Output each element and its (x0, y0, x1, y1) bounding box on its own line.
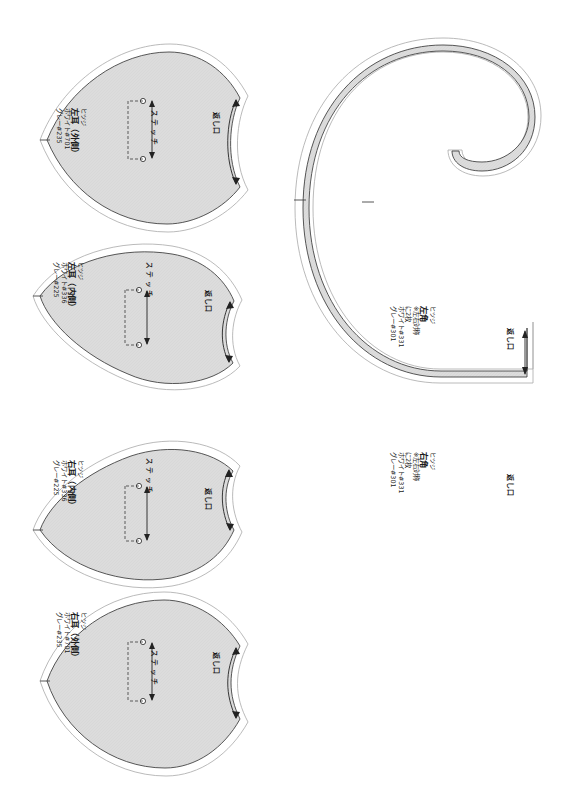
brand-label: ヒツジ (77, 262, 85, 311)
label-left-ear-inner: ヒツジ 左耳（内側） ホワイト#336 グレー#225 (52, 262, 85, 311)
count-note-label: に2枚 (404, 452, 412, 494)
piece-name-label: 右角 (419, 452, 429, 494)
label-right-ear-inner: ヒツジ 右耳（内側） ホワイト#336 グレー#225 (52, 460, 85, 509)
opening-label: 返し口 (204, 488, 214, 511)
brand-label: ヒツジ (429, 452, 437, 494)
thread-gray-label: グレー#301 (388, 452, 396, 494)
thread-white-label: ホワイト#336 (59, 460, 67, 509)
count-note-label: に2枚 (404, 306, 412, 348)
brand-label: ヒツジ (429, 306, 437, 348)
piece-name-label: 左耳（内側） (67, 262, 77, 311)
opening-label: 返し口 (204, 290, 214, 313)
thread-white-label: ホワイト#701 (62, 612, 70, 661)
opening-label: 返し口 (506, 474, 516, 497)
stitch-label: ステッチ (150, 650, 160, 688)
thread-gray-label: グレー#225 (52, 460, 60, 509)
pattern-sheet: ヒツジ 左耳（外側） ホワイト#701 グレー#235 ステッチ 返し口 ヒツジ… (0, 0, 572, 808)
brand-label: ヒツジ (77, 460, 85, 509)
thread-white-label: ホワイト#701 (62, 108, 70, 157)
brand-label: ヒツジ (80, 612, 88, 661)
piece-name-label: 左耳（外側） (70, 108, 80, 157)
thread-white-label: ホワイト#336 (59, 262, 67, 311)
stitch-label: ステッチ (145, 458, 155, 496)
label-right-horn: ヒツジ 右角 ※左右対称 に2枚 ホワイト#331 グレー#301 (388, 452, 437, 494)
symmetry-note-label: ※左右対称 (411, 452, 419, 494)
opening-label: 返し口 (212, 112, 222, 135)
thread-gray-label: グレー#301 (388, 306, 396, 348)
stitch-label: ステッチ (150, 110, 160, 148)
label-left-ear-outer: ヒツジ 左耳（外側） ホワイト#701 グレー#235 (55, 108, 88, 157)
label-left-horn: ヒツジ 左角 ※左右対称 に2枚 ホワイト#331 グレー#301 (388, 306, 437, 348)
piece-name-label: 左角 (419, 306, 429, 348)
label-right-ear-outer: ヒツジ 右耳（外側） ホワイト#701 グレー#235 (55, 612, 88, 661)
thread-gray-label: グレー#235 (55, 612, 63, 661)
symmetry-note-label: ※左右対称 (411, 306, 419, 348)
piece-name-label: 右耳（内側） (67, 460, 77, 509)
thread-gray-label: グレー#235 (55, 108, 63, 157)
stitch-label: ステッチ (145, 262, 155, 300)
thread-gray-label: グレー#225 (52, 262, 60, 311)
opening-label: 返し口 (506, 328, 516, 351)
brand-label: ヒツジ (80, 108, 88, 157)
piece-name-label: 右耳（外側） (70, 612, 80, 661)
opening-label: 返し口 (212, 652, 222, 675)
